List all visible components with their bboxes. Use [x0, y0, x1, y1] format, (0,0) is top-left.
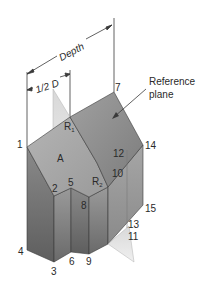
vertex-2: 2	[52, 183, 58, 194]
callout-line2: plane	[149, 89, 174, 100]
vertex-5: 5	[68, 177, 74, 188]
front-face-5-8	[71, 188, 89, 254]
vertex-4: 4	[18, 246, 24, 257]
vertex-11: 11	[128, 231, 139, 242]
vertex-13: 13	[128, 219, 140, 230]
face-label-A: A	[57, 153, 64, 164]
vertex-10: 10	[112, 168, 124, 179]
vertex-3: 3	[51, 266, 57, 277]
vertex-14: 14	[145, 140, 157, 151]
front-face-8-10	[89, 187, 108, 254]
front-face-2-5	[54, 188, 71, 262]
vertex-1: 1	[17, 139, 23, 150]
callout-line1: Reference	[149, 76, 196, 87]
vertex-15: 15	[145, 203, 157, 214]
vertex-6: 6	[69, 256, 75, 267]
half-depth-label: 1/2 D	[34, 77, 60, 95]
isometric-reference-plane-diagram: Depth 1/2 D Reference plane A R1 R2 1 2 …	[0, 0, 208, 284]
depth-label: Depth	[57, 40, 86, 62]
vertex-7: 7	[115, 82, 121, 93]
vertex-9: 9	[86, 256, 92, 267]
vertex-8: 8	[81, 200, 87, 211]
vertex-12: 12	[113, 148, 125, 159]
